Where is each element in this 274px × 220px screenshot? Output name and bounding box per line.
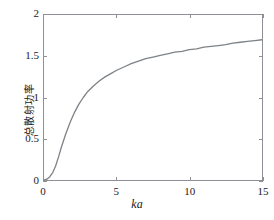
y-tick-label: 2 <box>34 8 40 19</box>
y-tick-mark-right <box>259 181 263 182</box>
series-line-total-scattering-power <box>44 40 262 180</box>
y-axis-label: 总散射功率 <box>21 84 36 137</box>
x-tick-label: 15 <box>258 186 269 197</box>
x-tick-mark-top <box>190 14 191 18</box>
y-tick-mark <box>43 98 47 99</box>
x-tick-mark <box>263 177 264 181</box>
x-tick-mark <box>190 177 191 181</box>
x-tick-label: 0 <box>40 186 46 197</box>
y-tick-mark <box>43 181 47 182</box>
x-axis-label: ka <box>0 198 274 210</box>
y-tick-label: 0 <box>34 175 40 186</box>
series-curve-svg <box>44 15 262 180</box>
x-tick-label: 5 <box>114 186 120 197</box>
figure: 00.511.52 051015 ka 总散射功率 <box>0 0 274 220</box>
y-tick-mark <box>43 139 47 140</box>
x-tick-mark-top <box>116 14 117 18</box>
x-tick-mark <box>43 177 44 181</box>
y-tick-mark-right <box>259 56 263 57</box>
plot-area <box>43 14 263 181</box>
y-tick-mark <box>43 56 47 57</box>
x-tick-mark-top <box>263 14 264 18</box>
y-tick-label: 1.5 <box>25 50 39 61</box>
x-tick-mark-top <box>43 14 44 18</box>
y-tick-mark-right <box>259 98 263 99</box>
x-tick-mark <box>116 177 117 181</box>
x-tick-label: 10 <box>184 186 195 197</box>
y-tick-mark-right <box>259 139 263 140</box>
